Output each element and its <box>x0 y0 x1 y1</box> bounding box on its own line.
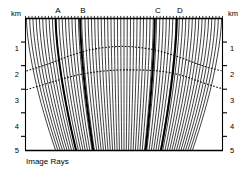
right-depth-label-4: 4 <box>230 122 234 131</box>
left-depth-label-3: 3 <box>15 96 19 105</box>
station-label-b: B <box>80 6 85 15</box>
station-label-a: A <box>55 6 61 15</box>
figure-caption: Image Rays <box>26 157 69 166</box>
left-depth-label-4: 4 <box>15 122 19 131</box>
right-depth-label-3: 3 <box>230 96 234 105</box>
left-depth-label-1: 1 <box>15 44 19 53</box>
station-label-d: D <box>177 6 183 15</box>
image-rays-figure: 1 2 3 4 5 1 2 3 4 5 km km A B C D Image … <box>0 0 252 174</box>
left-depth-label-5: 5 <box>15 146 19 155</box>
surface-tick-ladder <box>26 16 223 19</box>
right-unit-label: km <box>228 9 238 18</box>
station-label-c: C <box>155 6 161 15</box>
seismic-ray-diagram: 1 2 3 4 5 1 2 3 4 5 km km A B C D Image … <box>0 0 252 174</box>
left-depth-label-2: 2 <box>15 70 19 79</box>
right-depth-label-2: 2 <box>230 70 234 79</box>
right-depth-label-1: 1 <box>230 44 234 53</box>
right-depth-label-5: 5 <box>230 146 234 155</box>
left-unit-label: km <box>11 9 21 18</box>
